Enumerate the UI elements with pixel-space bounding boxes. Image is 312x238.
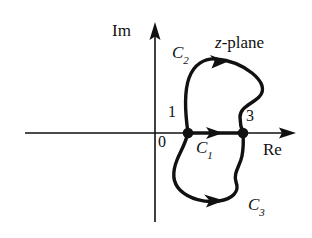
- real-axis-label: Re: [263, 141, 282, 158]
- complex-plane-diagram: [0, 0, 312, 238]
- branch-point-1-dot: [183, 128, 194, 139]
- branch-point-1-label: 1: [168, 104, 176, 120]
- contour-c3-label-subscript: 3: [259, 206, 265, 218]
- figure-container: Im Re z-plane 1 0 3 C1 C2 C3: [0, 0, 312, 238]
- contour-c1-label-base: C: [196, 138, 207, 157]
- origin-label: 0: [158, 134, 166, 150]
- contour-c2-label-base: C: [172, 43, 183, 62]
- contour-c2-label: C2: [172, 44, 189, 64]
- axis-group: [25, 22, 296, 222]
- contour-c2-arrowhead: [210, 55, 228, 69]
- contour-c3-label-base: C: [248, 195, 259, 214]
- branch-point-3-dot: [238, 128, 249, 139]
- contour-c1-label: C1: [196, 139, 213, 159]
- imaginary-axis-label: Im: [112, 22, 131, 39]
- contour-c1-label-subscript: 1: [207, 149, 213, 161]
- z-plane-label-roman: -plane: [222, 33, 264, 52]
- z-plane-label: z-plane: [215, 34, 264, 51]
- branch-point-3-label: 3: [246, 108, 254, 124]
- contour-c2-label-subscript: 2: [183, 54, 189, 66]
- contour-c3-label: C3: [248, 196, 265, 216]
- z-plane-label-italic: z: [215, 33, 222, 52]
